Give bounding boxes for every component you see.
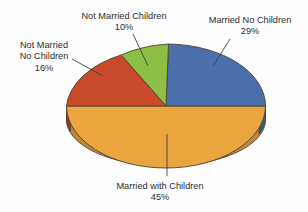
slice-label-not-married-children: Not Married Children 10%	[62, 11, 186, 34]
slice-label-text: Not Married Children	[81, 11, 166, 21]
pie-chart-figure: Not Married Children 10% Married No Chil…	[0, 0, 308, 212]
slice-label-text: Married with Children	[116, 181, 203, 191]
slice-label-percent: 10%	[62, 22, 186, 33]
slice-label-percent: 16%	[2, 63, 86, 74]
slice-label-married-with-children: Married with Children 45%	[96, 181, 224, 204]
pie-slice-married-with-children	[67, 106, 266, 168]
slice-label-not-married-no-children: Not Married No Children 16%	[2, 40, 86, 74]
slice-label-percent: 45%	[96, 192, 224, 203]
slice-label-text-line1: Not Married	[20, 40, 68, 50]
pie-top-face	[67, 44, 266, 168]
slice-label-text: Married No Children	[209, 15, 292, 25]
slice-label-text-line2: No Children	[2, 51, 86, 62]
slice-label-married-no-children: Married No Children 29%	[192, 15, 308, 38]
pie-slice-married-no-children	[166, 44, 266, 106]
slice-label-percent: 29%	[192, 26, 308, 37]
